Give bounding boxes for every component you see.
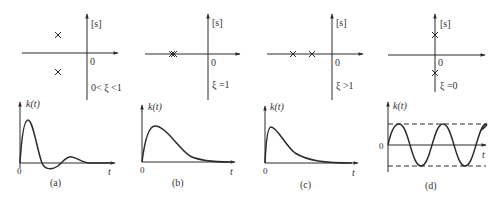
time-label-a: t <box>108 166 111 177</box>
plane-label-c: [s] <box>336 17 347 28</box>
response-origin-a: 0 <box>17 166 22 176</box>
caption-b: (b) <box>172 177 184 189</box>
time-label-c: t <box>352 167 355 178</box>
plane-label-d: [s] <box>440 18 451 29</box>
origin-label-b: 0 <box>211 57 216 68</box>
time-label-d: t <box>482 149 485 160</box>
condition-label-c: ξ >1 <box>336 80 354 92</box>
origin-label-d: 0 <box>438 57 443 68</box>
time-label-b: t <box>230 166 233 177</box>
condition-label-d: ξ =0 <box>440 80 458 92</box>
response-origin-c: 0 <box>263 166 268 176</box>
response-origin-b: 0 <box>140 165 145 175</box>
pole-cross-icon <box>55 69 61 75</box>
response-plot-c <box>265 106 358 163</box>
caption-a: (a) <box>50 177 61 189</box>
condition-label-b: ξ =1 <box>212 79 230 91</box>
response-label-d: k(t) <box>393 100 408 112</box>
response-label-c: k(t) <box>270 101 285 113</box>
overdamped-curve <box>265 127 352 163</box>
plane-label-a: [s] <box>91 18 102 29</box>
pole-cross-icon <box>55 32 61 38</box>
critically-damped-curve <box>142 126 230 162</box>
response-label-a: k(t) <box>26 98 41 110</box>
response-plot-d <box>388 102 487 172</box>
caption-d: (d) <box>425 180 437 192</box>
s-plane-d <box>388 14 485 92</box>
damped-oscillation-curve <box>20 120 110 169</box>
response-label-b: k(t) <box>148 101 163 113</box>
response-plot-b <box>142 105 235 162</box>
caption-c: (c) <box>300 179 311 191</box>
condition-label-a: 0< ξ <1 <box>91 82 122 94</box>
response-origin-d: 0 <box>379 141 384 151</box>
origin-label-a: 0 <box>90 56 95 67</box>
origin-label-c: 0 <box>335 57 340 68</box>
response-plot-a <box>20 102 115 169</box>
plane-label-b: [s] <box>212 17 223 28</box>
pole-response-figure: [s] 0 0< ξ <1 [s] 0 ξ =1 [s] 0 ξ >1 <box>0 0 499 207</box>
